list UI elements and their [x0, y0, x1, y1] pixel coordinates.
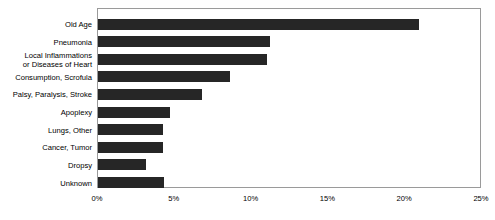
y-label-apoplexy: Apoplexy — [0, 108, 92, 117]
y-label-pneumonia: Pneumonia — [0, 38, 92, 47]
y-label-lungs-other: Lungs, Other — [0, 126, 92, 135]
bar-row — [98, 138, 480, 156]
x-tick-10: 10% — [243, 194, 258, 203]
y-label-local-inflammations-l1: Local Inflammations — [0, 51, 92, 60]
y-label-old-age: Old Age — [0, 20, 92, 29]
x-tick-0: 0% — [92, 194, 103, 203]
bar — [98, 142, 163, 153]
bar — [98, 71, 230, 82]
bar — [98, 177, 164, 188]
bar-row — [98, 50, 480, 68]
bar — [98, 124, 163, 135]
bar-row — [98, 33, 480, 51]
bar — [98, 19, 419, 30]
bar-row — [98, 121, 480, 139]
y-label-palsy-paralysis-stroke: Palsy, Paralysis, Stroke — [0, 90, 92, 99]
y-label-dropsy: Dropsy — [0, 161, 92, 170]
y-axis-labels: Old Age Pneumonia Local Inflammations or… — [0, 8, 92, 188]
y-label-consumption-scrofula: Consumption, Scrofula — [0, 73, 92, 82]
bar-row — [98, 68, 480, 86]
plot-area — [97, 8, 481, 188]
x-tick-20: 20% — [397, 194, 412, 203]
x-tick-5: 5% — [168, 194, 179, 203]
x-axis: 0% 5% 10% 15% 20% 25% — [97, 189, 481, 215]
bar — [98, 89, 202, 100]
y-label-cancer-tumor: Cancer, Tumor — [0, 143, 92, 152]
bar-row — [98, 85, 480, 103]
bar — [98, 107, 170, 118]
bar — [98, 54, 267, 65]
y-label-unknown: Unknown — [0, 179, 92, 188]
y-label-local-inflammations-l2: or Diseases of Heart — [0, 60, 92, 69]
x-tick-15: 15% — [320, 194, 335, 203]
bar — [98, 36, 270, 47]
bar — [98, 159, 146, 170]
bar-row — [98, 156, 480, 174]
bar-row — [98, 15, 480, 33]
bar-chart: Old Age Pneumonia Local Inflammations or… — [0, 0, 495, 220]
bar-row — [98, 103, 480, 121]
x-tick-25: 25% — [473, 194, 488, 203]
